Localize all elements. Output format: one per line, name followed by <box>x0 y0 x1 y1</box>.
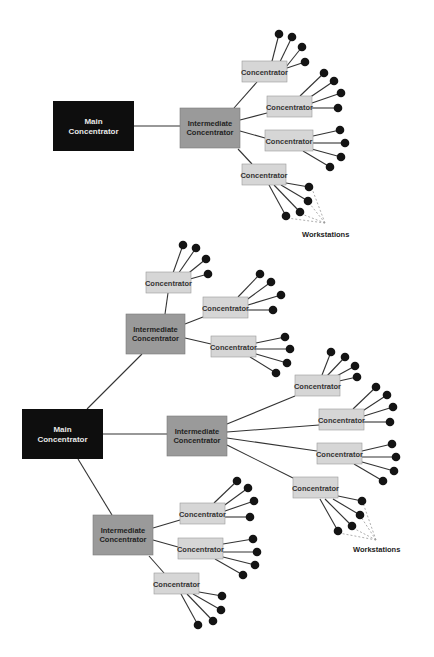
connection-line <box>281 185 308 201</box>
connection-line <box>165 293 168 314</box>
dashed-pointer-line <box>361 517 376 540</box>
connection-line <box>185 317 203 324</box>
connection-line <box>362 462 394 471</box>
node-label: Intermediate <box>175 427 220 436</box>
workstation-node-icon <box>179 241 188 250</box>
workstation-node-icon <box>269 306 278 315</box>
connection-line <box>240 113 267 120</box>
concentrator: Concentrator <box>240 164 313 220</box>
connection-line <box>364 407 393 416</box>
workstations-label: Workstations <box>302 230 349 239</box>
concentrator-label: Concentrator <box>240 171 287 180</box>
connection-line <box>312 93 341 103</box>
connection-line <box>325 499 352 526</box>
workstation-node-icon <box>330 77 339 86</box>
concentrator-label: Concentrator <box>294 382 341 391</box>
node-label: Main <box>84 117 102 126</box>
node-label: Intermediate <box>188 119 233 128</box>
connection-line <box>362 444 392 451</box>
workstation-node-icon <box>275 30 284 39</box>
workstation-node-icon <box>277 291 286 300</box>
concentrator: Concentrator <box>153 573 226 629</box>
connection-line <box>227 396 295 424</box>
workstation-node-icon <box>267 278 276 287</box>
diagram-two-level: MainConcentratorIntermediateConcentrator… <box>53 30 349 239</box>
connection-line <box>149 556 164 573</box>
workstation-node-icon <box>334 527 343 536</box>
workstation-node-icon <box>249 535 258 544</box>
workstation-node-icon <box>194 621 203 630</box>
connection-line <box>256 337 285 343</box>
workstation-node-icon <box>239 571 248 580</box>
workstation-node-icon <box>282 212 291 221</box>
workstation-node-icon <box>202 255 211 264</box>
workstation-node-icon <box>326 163 335 172</box>
workstation-node-icon <box>372 383 381 392</box>
workstation-node-icon <box>348 522 357 531</box>
connection-line <box>181 594 198 625</box>
workstation-node-icon <box>298 43 307 52</box>
intermediate-concentrator: IntermediateConcentrator <box>93 515 153 555</box>
workstation-node-icon <box>250 497 259 506</box>
workstation-node-icon <box>327 348 336 357</box>
workstation-node-icon <box>192 244 201 253</box>
connection-line <box>227 438 317 451</box>
workstation-node-icon <box>301 58 310 67</box>
connection-line <box>300 73 324 96</box>
workstation-node-icon <box>337 89 346 98</box>
network-topology-diagram: MainConcentratorIntermediateConcentrator… <box>0 0 434 657</box>
workstation-node-icon <box>358 497 367 506</box>
workstation-node-icon <box>351 362 360 371</box>
connection-line <box>234 82 257 108</box>
concentrator-label: Concentrator <box>210 343 257 352</box>
workstation-node-icon <box>233 477 242 486</box>
node-label: Concentrator <box>173 436 220 445</box>
intermediate-concentrator: IntermediateConcentrator <box>126 314 185 354</box>
connection-line <box>153 520 180 528</box>
concentrator-label: Concentrator <box>179 510 226 519</box>
workstation-node-icon <box>336 126 345 135</box>
workstation-node-icon <box>337 153 346 162</box>
connection-line <box>225 501 254 511</box>
workstation-node-icon <box>389 403 398 412</box>
dashed-pointer-line <box>353 528 376 540</box>
node-label: Concentrator <box>99 535 146 544</box>
workstation-node-icon <box>256 270 265 279</box>
workstation-node-icon <box>341 139 350 148</box>
workstation-node-icon <box>296 208 305 217</box>
workstation-node-icon <box>283 359 292 368</box>
workstation-node-icon <box>288 33 297 42</box>
workstation-node-icon <box>272 369 281 378</box>
connection-line <box>223 557 255 565</box>
intermediate-concentrator: IntermediateConcentrator <box>167 416 227 456</box>
workstation-node-icon <box>305 183 314 192</box>
workstations-label: Workstations <box>353 545 400 554</box>
diagram-three-level: MainConcentratorIntermediateConcentrator… <box>22 241 400 630</box>
concentrator-label: Concentrator <box>318 416 365 425</box>
dashed-pointer-line <box>311 186 325 223</box>
workstation-node-icon <box>386 418 395 427</box>
concentrator: Concentrator <box>145 241 212 293</box>
concentrator: Concentrator <box>210 333 294 378</box>
concentrator-label: Concentrator <box>241 68 288 77</box>
intermediate-concentrator: IntermediateConcentrator <box>180 108 240 148</box>
concentrator: Concentrator <box>177 535 261 580</box>
workstation-node-icon <box>281 333 290 342</box>
node-label: Intermediate <box>133 325 178 334</box>
concentrator-label: Concentrator <box>265 137 312 146</box>
node-label: Main <box>53 425 71 434</box>
dashed-pointer-line <box>339 533 376 540</box>
workstation-node-icon <box>334 104 343 113</box>
node-label: Concentrator <box>68 127 118 136</box>
connection-line <box>227 445 293 478</box>
connection-line <box>87 354 142 409</box>
connection-line <box>240 131 265 138</box>
concentrator: Concentrator <box>179 477 258 524</box>
workstation-node-icon <box>356 511 365 520</box>
workstation-node-icon <box>251 561 260 570</box>
workstation-node-icon <box>388 440 397 449</box>
concentrator-label: Concentrator <box>202 304 249 313</box>
connection-line <box>78 459 112 515</box>
concentrator: Concentrator <box>292 477 366 535</box>
concentrator-label: Concentrator <box>292 484 339 493</box>
